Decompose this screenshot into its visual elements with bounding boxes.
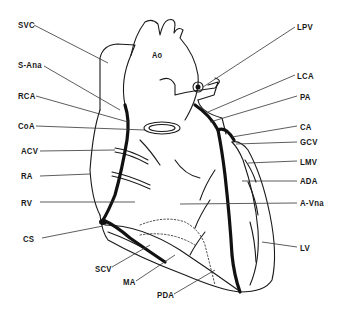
label-ra: RA <box>21 171 33 181</box>
label-lca: LCA <box>297 71 314 81</box>
label-lv: LV <box>300 243 310 253</box>
label-ada: ADA <box>300 176 318 186</box>
label-ma: MA <box>123 277 136 287</box>
label-gcv: GCV <box>300 137 318 147</box>
ada-vessel <box>195 105 240 292</box>
label-s-ana: S-Ana <box>18 60 42 70</box>
label-coa: CoA <box>18 121 35 131</box>
heart-illustration <box>0 0 343 313</box>
label-scv: SCV <box>95 264 112 274</box>
aorta-outline <box>131 20 198 120</box>
right-atrium-outline <box>90 110 100 215</box>
label-pa: PA <box>300 92 311 102</box>
left-ventricle-outline <box>232 142 275 292</box>
label-ca: CA <box>300 122 312 132</box>
label-a-vna: A-Vna <box>300 198 324 208</box>
label-pda: PDA <box>157 290 174 300</box>
cs-vessel <box>103 220 165 262</box>
heart-diagram: SVC S-Ana RCA CoA ACV RA RV CS LPV LCA P… <box>0 0 343 313</box>
svc-outline <box>100 44 135 110</box>
label-rca: RCA <box>18 91 36 101</box>
label-cs: CS <box>23 234 34 244</box>
label-lpv: LPV <box>297 22 313 32</box>
label-lmv: LMV <box>300 157 317 167</box>
label-rv: RV <box>21 198 32 208</box>
label-ao: Ao <box>152 50 162 60</box>
label-svc: SVC <box>18 20 35 30</box>
rca-vessel <box>103 105 128 220</box>
label-acv: ACV <box>21 146 38 156</box>
